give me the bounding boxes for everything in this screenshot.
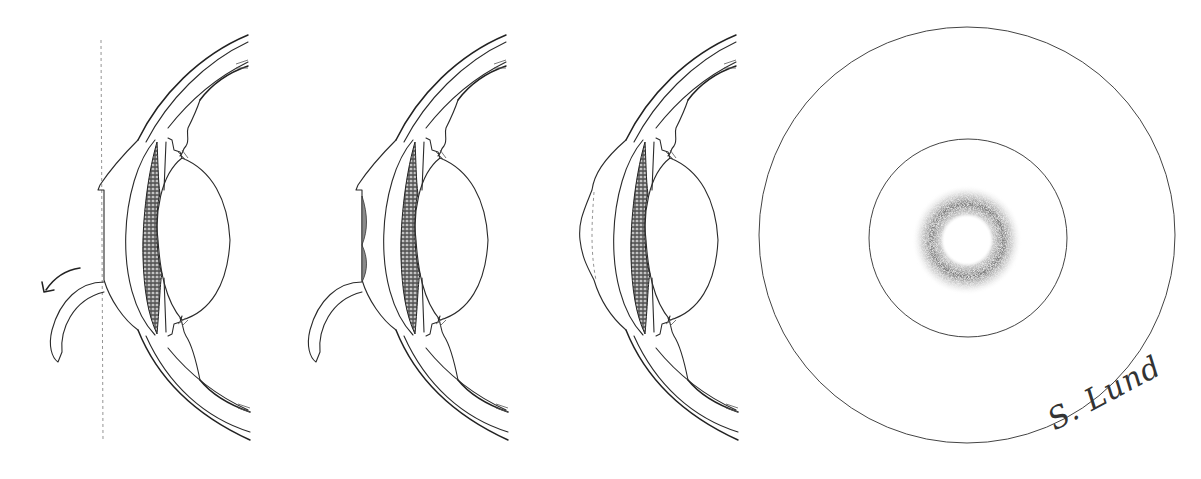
panel-2-eye-ablation [308, 35, 508, 440]
cornea-outline [98, 140, 138, 330]
eye-cross-section [614, 35, 738, 440]
illustration-canvas [0, 0, 1201, 479]
eye-cross-section [126, 35, 250, 440]
ablation-zone [362, 196, 367, 282]
reference-dashed-line [101, 40, 103, 440]
corneal-flap [308, 282, 362, 362]
curved-arrow-icon [46, 268, 80, 290]
haze-ring [912, 185, 1022, 295]
cornea-outline-bulging [580, 140, 626, 330]
panel-3-eye-flap-replaced [580, 35, 738, 440]
eye-cross-section [384, 35, 508, 440]
corneal-flap [50, 282, 104, 362]
panel-1-eye-flap-lifted [42, 35, 250, 440]
flap-interface-line [592, 192, 596, 280]
